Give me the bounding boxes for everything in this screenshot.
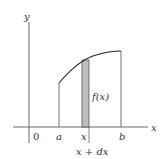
label-b: b [119, 131, 125, 142]
origin-label: 0 [33, 131, 39, 142]
x-axis-label: x [151, 122, 157, 133]
label-x-plus-dx: x + dx [76, 146, 109, 157]
label-a: a [56, 131, 62, 142]
area-under-curve-diagram: y x 0 a x b x + dx f(x) [0, 0, 163, 159]
curve-f [59, 51, 121, 83]
strip-dx [82, 60, 89, 127]
label-x: x [81, 131, 87, 142]
label-fx: f(x) [91, 91, 109, 102]
y-axis-label: y [23, 11, 30, 22]
